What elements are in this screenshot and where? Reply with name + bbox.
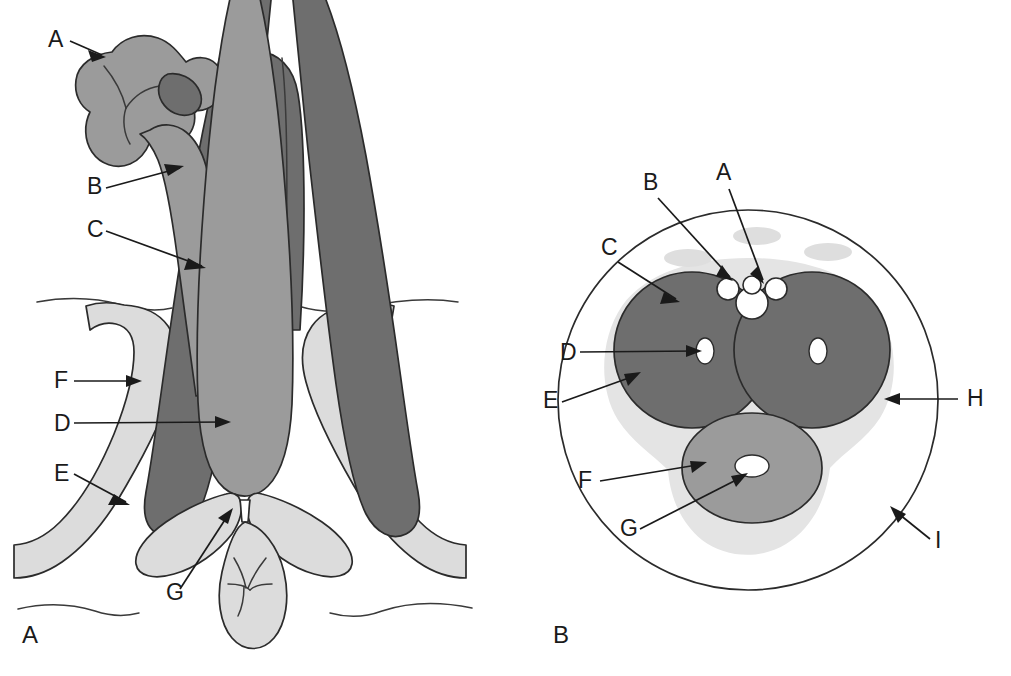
panel-label-a: A	[22, 621, 38, 648]
superficial-vessel-right	[804, 243, 852, 261]
callout-label-f-panel-b: F	[578, 467, 592, 493]
callout-label-e-panel-b: E	[543, 387, 558, 413]
callout-label-c-panel-b: C	[601, 234, 618, 260]
panel-label-b: B	[553, 621, 569, 648]
superficial-vessel-top	[733, 227, 781, 245]
callout-label-f-panel-a: F	[54, 367, 68, 393]
panel-b-illustration	[558, 210, 938, 590]
anatomy-figure: A B C F D E G B A C D E F G H I A B	[0, 0, 1011, 676]
callout-label-h-panel-b: H	[967, 385, 984, 411]
callout-label-a-panel-b: A	[716, 159, 732, 185]
dorsal-artery-right	[765, 278, 787, 300]
callout-label-d-panel-a: D	[54, 410, 71, 436]
callout-label-e-panel-a: E	[54, 460, 69, 486]
figure-root: A B C F D E G B A C D E F G H I A B	[0, 0, 1011, 676]
callout-label-b-panel-b: B	[643, 169, 658, 195]
urethra-lumen	[735, 455, 769, 477]
callout-label-d-panel-b: D	[560, 339, 577, 365]
callout-label-b-panel-a: B	[87, 173, 102, 199]
superficial-vessel-left	[664, 249, 712, 267]
callout-label-g-panel-a: G	[166, 579, 184, 605]
callout-label-i-panel-b: I	[935, 527, 941, 553]
callout-label-c-panel-a: C	[87, 216, 104, 242]
callout-label-a-panel-a: A	[48, 26, 64, 52]
callout-label-g-panel-b: G	[620, 515, 638, 541]
perineal-body-slit	[240, 500, 250, 522]
dorsal-artery-left	[717, 278, 739, 300]
deep-artery-right	[809, 338, 827, 364]
